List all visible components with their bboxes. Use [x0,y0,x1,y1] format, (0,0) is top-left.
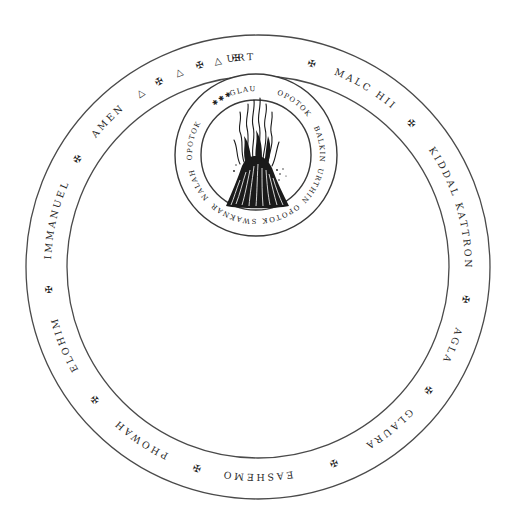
outer-ring-cross-icon: ✠ [306,57,319,70]
outer-ring-inscription: URTHIN✠MALC HII✠KIDDAL KATTRON✠AGLA✠GLAU… [0,0,474,483]
outer-ring-cross-icon: ✠ [420,384,435,399]
outer-ring-word: AGLA [440,326,465,367]
outer-ring-cross-icon: ✠ [460,294,473,306]
outer-ring-cross-icon: ✠ [326,457,340,471]
outer-ring-word: MALC HII [333,66,399,112]
outer-ring-word: KIDDAL KATTRON [427,145,474,271]
outer-ring-cross-icon: ✠ [86,391,101,406]
outer-ring-triangle-icon: △ [134,85,148,100]
outer-ring-cross-icon: ✠ [189,461,202,475]
outer-ring-word: EASHEMO [220,469,293,483]
outer-ring-cross-icon: ✠ [405,116,420,131]
outer-ring-word: IMMANUEL [42,178,71,260]
outer-ring-cross-icon: ✠ [231,52,243,64]
outer-ring-cross-icon: ✠ [194,58,207,71]
outer-ring-word: URTHIN [0,0,256,64]
seal-drawing: URTHIN✠MALC HII✠KIDDAL KATTRON✠AGLA✠GLAU… [0,0,508,528]
outer-ring-cross-icon: ✠ [71,150,86,165]
outer-ring-triangle-icon: △ [173,64,186,78]
outer-ring-triangle-icon: △ [213,54,225,67]
outer-ring-word: PHOWAH [111,417,169,462]
outer-ring-cross-icon: ✠ [43,282,55,294]
outer-ring-word: GLAURA [363,407,416,453]
outer-ring-cross-icon: ✠ [153,73,167,88]
seal-canvas: URTHIN✠MALC HII✠KIDDAL KATTRON✠AGLA✠GLAU… [0,0,508,528]
